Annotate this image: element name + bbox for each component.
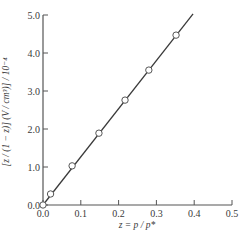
- data-point-marker: [146, 67, 152, 73]
- regression-line: [43, 14, 193, 205]
- x-tick-label: 0.5: [226, 208, 239, 219]
- y-axis-label: [z / (1 − z)] (V / cm³)] / 10⁻⁴: [1, 57, 12, 167]
- x-tick-label: 0.1: [75, 208, 88, 219]
- ticks: 0.01.02.03.04.05.00.00.10.20.30.40.5: [28, 10, 239, 220]
- data-point-marker: [47, 191, 53, 197]
- chart-canvas: 0.01.02.03.04.05.00.00.10.20.30.40.5 z =…: [0, 0, 249, 234]
- data-point-marker: [173, 32, 179, 38]
- x-tick-label: 0.2: [112, 208, 125, 219]
- data-point-marker: [122, 97, 128, 103]
- y-tick-label: 1.0: [28, 162, 41, 173]
- y-tick-label: 2.0: [28, 124, 41, 135]
- y-tick-label: 4.0: [28, 48, 41, 59]
- data-point-marker: [69, 163, 75, 169]
- x-tick-label: 0.0: [37, 208, 50, 219]
- x-axis-label: z = p / p*: [118, 220, 156, 230]
- fit-line: [43, 14, 193, 205]
- x-tick-label: 0.3: [150, 208, 163, 219]
- y-tick-label: 5.0: [28, 10, 41, 21]
- axes: [43, 15, 232, 205]
- y-tick-label: 3.0: [28, 86, 41, 97]
- data-point-marker: [96, 130, 102, 136]
- data-point-marker: [40, 202, 46, 208]
- x-tick-label: 0.4: [188, 208, 201, 219]
- bet-plot: 0.01.02.03.04.05.00.00.10.20.30.40.5 z =…: [0, 0, 249, 234]
